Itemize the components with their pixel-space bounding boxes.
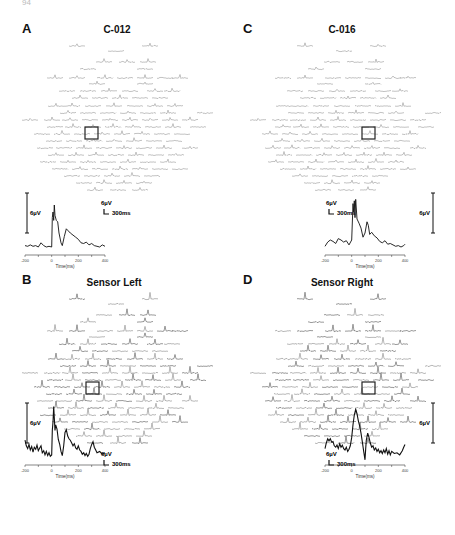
panel-d-sensor-right: D Sensor Right 6µV300ms-2000200400Time(m… — [225, 268, 450, 533]
svg-text:6µV: 6µV — [326, 451, 337, 457]
x-tick-label: 0 — [51, 258, 54, 263]
panel-b-sensor-left: B Sensor Left 6µV300ms-2000200400Time(ms… — [0, 268, 225, 533]
trace-scale-label: 6µV — [419, 420, 430, 426]
sensor-traces — [22, 43, 213, 190]
x-tick-label: 0 — [351, 258, 354, 263]
sensor-array-plot: 6µV300ms-2000200400Time(ms)6µV — [0, 268, 225, 533]
array-scale-bar: 6µV300ms — [326, 451, 356, 467]
selected-sensor-box — [362, 382, 375, 394]
x-tick-label: 400 — [402, 468, 409, 473]
selected-sensor-box — [86, 382, 99, 394]
svg-text:6µV: 6µV — [101, 200, 112, 206]
trace-scale-label: 6µV — [419, 210, 430, 216]
sensor-array-plot: 6µV300ms-2000200400Time(ms)6µV — [0, 0, 225, 265]
x-tick-label: 200 — [75, 258, 82, 263]
panel-a-c012: A C-012 6µV300ms-2000200400Time(ms)6µV — [0, 0, 225, 265]
trace-scale-label: 6µV — [30, 420, 41, 426]
erp-waveform — [325, 199, 405, 247]
x-tick-label: 200 — [375, 258, 382, 263]
x-tick-label: 0 — [351, 468, 354, 473]
selected-sensor-box — [362, 127, 375, 139]
sensor-array-plot: 6µV300ms-2000200400Time(ms)6µV — [225, 268, 450, 533]
svg-text:300ms: 300ms — [112, 461, 131, 467]
sensor-array-plot: 6µV300ms-2000200400Time(ms)6µV — [225, 0, 450, 265]
x-tick-label: 0 — [51, 468, 54, 473]
sensor-traces — [250, 43, 441, 191]
x-axis-label: Time(ms) — [356, 474, 375, 479]
trace-scale-label: 6µV — [30, 210, 41, 216]
erp-trace-plot: -2000200400Time(ms)6µV — [21, 403, 109, 479]
array-scale-bar: 6µV300ms — [101, 451, 131, 467]
erp-waveform — [325, 409, 405, 459]
svg-text:300ms: 300ms — [337, 461, 356, 467]
svg-text:6µV: 6µV — [326, 200, 337, 206]
array-scale-bar: 6µV300ms — [101, 200, 131, 216]
x-axis-label: Time(ms) — [56, 474, 75, 479]
array-scale-bar: 6µV300ms — [326, 200, 356, 216]
x-tick-label: -200 — [321, 468, 330, 473]
erp-trace-plot: -2000200400Time(ms)6µV — [321, 193, 435, 269]
x-tick-label: 200 — [375, 468, 382, 473]
erp-trace-plot: -2000200400Time(ms)6µV — [21, 193, 109, 269]
x-tick-label: -200 — [321, 258, 330, 263]
sensor-traces — [22, 292, 213, 443]
sensor-traces — [250, 292, 441, 443]
erp-waveform — [25, 407, 105, 457]
panel-c-c016: C C-016 6µV300ms-2000200400Time(ms)6µV — [225, 0, 450, 265]
x-tick-label: 400 — [102, 468, 109, 473]
x-tick-label: 200 — [75, 468, 82, 473]
selected-sensor-box — [85, 127, 98, 139]
svg-text:300ms: 300ms — [112, 210, 131, 216]
x-tick-label: 400 — [102, 258, 109, 263]
x-tick-label: -200 — [21, 468, 30, 473]
x-tick-label: 400 — [402, 258, 409, 263]
x-tick-label: -200 — [21, 258, 30, 263]
